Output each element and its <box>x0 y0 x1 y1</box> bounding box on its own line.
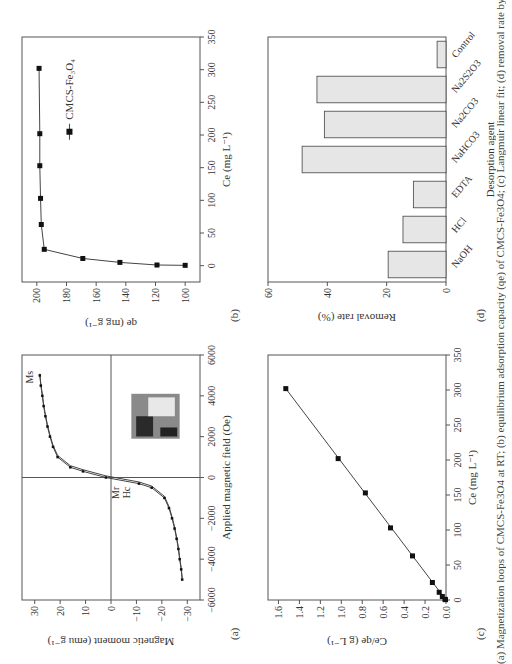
figure-caption: (a) Magnetization loops of CMCS-Fe3O4 at… <box>494 0 506 664</box>
y-tick-label: 0.6 <box>378 606 389 619</box>
inset-photo <box>131 394 179 439</box>
panel-label: (c) <box>474 627 487 640</box>
panel-a-hysteresis-chart: −6000−4000−20000200040006000−30−20−10010… <box>0 334 250 664</box>
x-tick-label: 150 <box>452 488 463 503</box>
x-tick-label: −2000 <box>206 506 217 532</box>
x-axis-label: Applied magnetic field (Oe) <box>220 415 233 540</box>
data-point <box>437 590 442 595</box>
data-point <box>150 486 153 489</box>
x-tick-label: −6000 <box>206 587 217 613</box>
y-tick-label: −10 <box>131 606 142 622</box>
x-tick-label: 4000 <box>206 386 217 406</box>
data-point <box>49 435 52 438</box>
x-tick-label: −4000 <box>206 546 217 572</box>
x-tick-label: 300 <box>452 383 463 398</box>
y-tick-label: −30 <box>182 606 193 622</box>
data-point <box>178 558 181 561</box>
data-point <box>82 470 85 473</box>
data-point <box>42 247 47 252</box>
category-label: NaHCO3 <box>449 129 482 165</box>
y-tick-label: 0.0 <box>441 606 452 619</box>
y-tick-label: 1.4 <box>294 606 305 619</box>
bar-control <box>437 41 446 68</box>
x-tick-label: 100 <box>206 193 217 208</box>
data-point <box>52 446 55 449</box>
x-tick-label: 6000 <box>206 345 217 365</box>
data-point <box>154 263 159 268</box>
data-point <box>56 456 59 459</box>
y-axis-label: qe (mg g⁻¹) <box>85 317 137 330</box>
y-tick-label: 140 <box>120 288 131 303</box>
data-point <box>105 476 108 479</box>
x-tick-label: 200 <box>452 453 463 468</box>
y-axis-label: Ce/qe (g L⁻¹) <box>327 635 387 648</box>
data-point <box>283 386 288 391</box>
data-point <box>430 580 435 585</box>
data-point <box>39 374 42 377</box>
x-tick-label: 0 <box>206 263 217 268</box>
data-point <box>40 384 43 387</box>
y-tick-label: 0.8 <box>357 606 368 619</box>
x-tick-label: 250 <box>206 95 217 110</box>
y-tick-label: 0.4 <box>399 606 410 619</box>
data-point <box>363 490 368 495</box>
y-tick-label: 1.2 <box>315 606 326 619</box>
y-tick-label: 0.2 <box>420 606 431 619</box>
bar-edta <box>413 181 446 208</box>
y-tick-label: 1.0 <box>336 606 347 619</box>
category-label: Control <box>449 29 477 60</box>
x-tick-label: 50 <box>452 560 463 570</box>
bar-na2co3 <box>324 111 446 138</box>
y-tick-label: 40 <box>322 288 333 298</box>
x-axis-label: Ce (mg L⁻¹) <box>220 132 233 187</box>
data-point <box>41 395 44 398</box>
y-tick-label: 0 <box>106 606 117 611</box>
x-tick-label: 0 <box>206 475 217 480</box>
category-label: HCl <box>449 215 468 235</box>
data-point <box>171 517 174 520</box>
bar-hcl <box>403 216 446 243</box>
y-tick-label: 200 <box>31 288 42 303</box>
y-tick-label: −20 <box>156 606 167 622</box>
y-axis-label: Magnetic moment (emu g⁻¹) <box>47 635 174 648</box>
y-axis-label: Removal rate (%) <box>318 311 397 324</box>
x-tick-label: 150 <box>206 160 217 175</box>
panel-label: (b) <box>228 309 241 322</box>
data-point <box>37 163 42 168</box>
bar-nahco3 <box>302 146 446 173</box>
data-point <box>173 527 176 530</box>
data-point <box>80 256 85 261</box>
data-point <box>38 196 43 201</box>
data-point <box>37 66 42 71</box>
y-tick-label: 0 <box>441 288 452 293</box>
x-tick-label: 250 <box>452 418 463 433</box>
x-tick-label: 300 <box>206 62 217 77</box>
data-point <box>336 456 341 461</box>
data-point <box>183 263 188 268</box>
x-tick-label: 50 <box>206 228 217 238</box>
y-tick-label: 120 <box>150 288 161 303</box>
x-tick-label: 2000 <box>206 427 217 447</box>
x-tick-label: 350 <box>452 348 463 363</box>
x-tick-label: 0 <box>452 598 463 603</box>
figure: −6000−4000−20000200040006000−30−20−10010… <box>0 0 512 664</box>
panel-b-adsorption-chart: 050100150200250300350100120140160180200C… <box>0 0 250 332</box>
data-point <box>39 222 44 227</box>
y-tick-label: 100 <box>180 288 191 303</box>
data-point <box>46 425 49 428</box>
plot-frame <box>22 37 200 282</box>
annotation-ms: Ms <box>24 371 35 384</box>
y-tick-label: 20 <box>55 606 66 616</box>
annotation-mr: Mr <box>110 486 121 499</box>
legend-label: CMCS-Fe₃O₄ <box>63 59 75 120</box>
y-tick-label: 20 <box>381 288 392 298</box>
y-tick-label: 60 <box>263 288 274 298</box>
data-point <box>168 507 171 510</box>
x-tick-label: 350 <box>206 30 217 45</box>
x-tick-label: 200 <box>206 128 217 143</box>
plot-frame <box>268 355 446 600</box>
category-label: EDTA <box>449 172 475 199</box>
data-point <box>69 466 72 469</box>
x-axis-label: Ce (mg L⁻¹) <box>466 450 479 505</box>
y-tick-label: 180 <box>61 288 72 303</box>
